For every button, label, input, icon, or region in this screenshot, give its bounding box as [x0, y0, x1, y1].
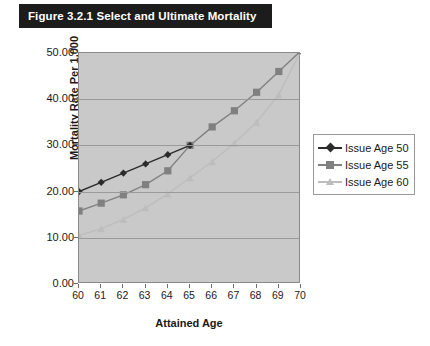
data-point-marker — [120, 216, 127, 223]
x-tick-label: 68 — [244, 289, 268, 301]
chart-container: Mortality Rate Per 1,000 50.0040.0030.00… — [0, 0, 430, 346]
plot-area — [78, 52, 300, 283]
data-point-marker — [98, 225, 105, 232]
x-tick-label: 62 — [110, 289, 134, 301]
x-tick-label: 66 — [199, 289, 223, 301]
x-tick-mark — [211, 284, 212, 288]
data-point-marker — [142, 204, 149, 211]
x-tick-mark — [167, 284, 168, 288]
data-point-marker — [79, 207, 83, 214]
data-point-marker — [164, 167, 171, 174]
x-tick-mark — [100, 284, 101, 288]
data-point-marker — [209, 123, 216, 130]
legend-item-label: Issue Age 50 — [345, 142, 409, 154]
data-point-marker — [98, 179, 105, 186]
data-point-marker — [142, 181, 149, 188]
x-tick-mark — [233, 284, 234, 288]
series-line — [79, 145, 190, 191]
x-tick-label: 63 — [133, 289, 157, 301]
x-tick-mark — [78, 284, 79, 288]
legend-item-label: Issue Age 55 — [345, 159, 409, 171]
x-tick-label: 61 — [88, 289, 112, 301]
x-axis-title: Attained Age — [78, 317, 300, 329]
y-tick-label: 40.00 — [32, 92, 74, 104]
data-point-marker — [275, 68, 282, 75]
data-point-marker — [231, 107, 238, 114]
x-tick-mark — [278, 284, 279, 288]
legend-item[interactable]: Issue Age 60 — [318, 173, 409, 190]
x-axis-ticks: 6061626364656667686970 — [78, 284, 300, 310]
y-tick-label: 50.00 — [32, 46, 74, 58]
y-tick-label: 10.00 — [32, 231, 74, 243]
series-line — [79, 53, 301, 211]
legend-item[interactable]: Issue Age 55 — [318, 156, 409, 173]
data-point-marker — [275, 91, 282, 98]
data-point-marker — [98, 200, 105, 207]
series-issue-age-55 — [79, 53, 301, 215]
data-point-marker — [120, 170, 127, 177]
x-tick-mark — [256, 284, 257, 288]
x-tick-mark — [300, 284, 301, 288]
gridline-10 — [79, 238, 299, 239]
legend-square-icon — [318, 159, 342, 171]
gridline-40 — [79, 99, 299, 100]
legend-diamond-icon — [318, 142, 342, 154]
gridline-20 — [79, 192, 299, 193]
y-tick-label: 0.00 — [32, 277, 74, 289]
x-tick-label: 60 — [66, 289, 90, 301]
series-layer — [79, 53, 301, 284]
legend-item[interactable]: Issue Age 50 — [318, 139, 409, 156]
x-tick-mark — [145, 284, 146, 288]
gridline-30 — [79, 145, 299, 146]
x-tick-label: 64 — [155, 289, 179, 301]
data-point-marker — [164, 151, 171, 158]
legend-triangle-icon — [318, 176, 342, 188]
chart-legend: Issue Age 50Issue Age 55Issue Age 60 — [313, 134, 415, 195]
x-tick-label: 67 — [221, 289, 245, 301]
x-tick-label: 70 — [288, 289, 312, 301]
y-tick-label: 30.00 — [32, 138, 74, 150]
x-tick-mark — [189, 284, 190, 288]
legend-item-label: Issue Age 60 — [345, 176, 409, 188]
x-tick-mark — [122, 284, 123, 288]
data-point-marker — [142, 160, 149, 167]
data-point-marker — [297, 53, 301, 54]
data-point-marker — [253, 89, 260, 96]
y-axis-ticks: 50.0040.0030.0020.0010.000.00 — [30, 52, 74, 283]
x-tick-label: 69 — [266, 289, 290, 301]
x-tick-label: 65 — [177, 289, 201, 301]
y-tick-label: 20.00 — [32, 185, 74, 197]
